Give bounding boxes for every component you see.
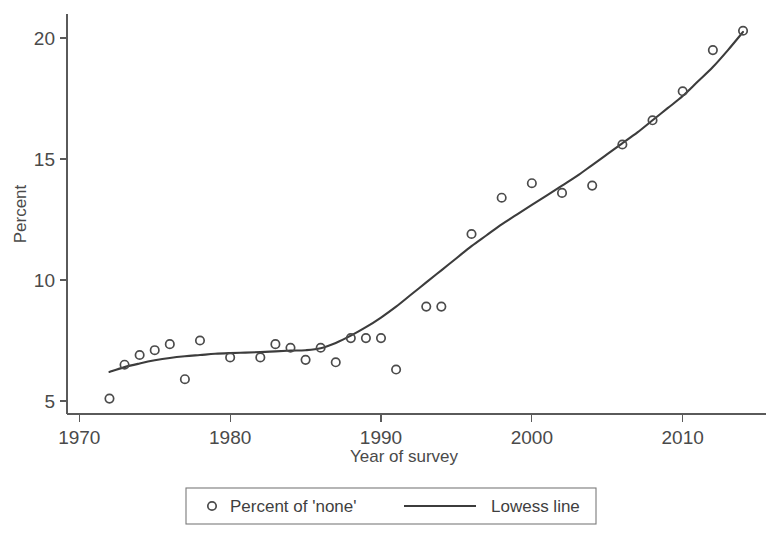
data-point-1993: [422, 302, 430, 310]
data-point-2000: [528, 179, 536, 187]
data-point-1985: [301, 356, 309, 364]
legend-label-percent-of-none: Percent of 'none': [230, 497, 357, 516]
data-point-1982: [256, 353, 264, 361]
data-point-1983: [271, 340, 279, 348]
data-point-1987: [332, 358, 340, 366]
x-tick-label-1970: 1970: [58, 427, 100, 448]
data-point-1977: [181, 375, 189, 383]
data-point-2004: [588, 181, 596, 189]
x-tick-label-2010: 2010: [662, 427, 704, 448]
data-point-2010: [679, 87, 687, 95]
legend-label-lowess-line: Lowess line: [491, 497, 580, 516]
y-tick-label-20: 20: [34, 28, 55, 49]
plot-area: 510152019701980199020002010Year of surve…: [11, 14, 766, 524]
data-point-2012: [709, 46, 717, 54]
y-tick-label-10: 10: [34, 270, 55, 291]
data-point-1980: [226, 353, 234, 361]
data-point-2014: [739, 27, 747, 35]
data-point-2002: [558, 189, 566, 197]
data-point-1996: [467, 230, 475, 238]
data-point-1990: [377, 334, 385, 342]
data-point-1976: [166, 340, 174, 348]
chart-figure: 510152019701980199020002010Year of surve…: [0, 0, 774, 535]
y-tick-label-15: 15: [34, 149, 55, 170]
lowess-line: [109, 32, 743, 372]
data-point-1989: [362, 334, 370, 342]
data-point-1974: [135, 351, 143, 359]
data-point-1994: [437, 302, 445, 310]
y-axis-title: Percent: [11, 184, 30, 243]
y-tick-label-5: 5: [44, 391, 55, 412]
data-point-1998: [497, 194, 505, 202]
data-point-1991: [392, 365, 400, 373]
data-point-1975: [151, 346, 159, 354]
x-tick-label-1990: 1990: [360, 427, 402, 448]
data-point-1978: [196, 336, 204, 344]
data-point-1972: [105, 394, 113, 402]
x-tick-label-1980: 1980: [209, 427, 251, 448]
x-tick-label-2000: 2000: [511, 427, 553, 448]
x-axis-title: Year of survey: [350, 447, 459, 466]
